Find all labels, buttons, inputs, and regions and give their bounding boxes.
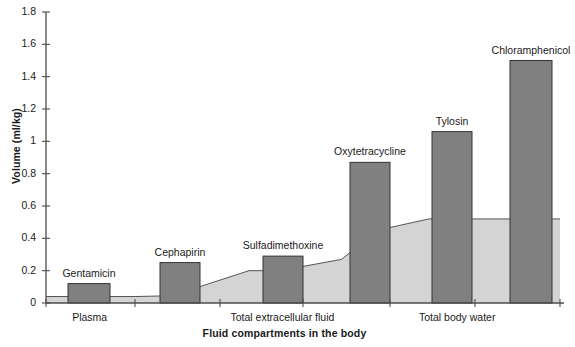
bar-sulfadimethoxine[interactable] — [263, 256, 303, 303]
x-axis-title: Fluid compartments in the body — [0, 327, 569, 339]
bar-tylosin[interactable] — [432, 132, 472, 303]
bar-gentamicin[interactable] — [68, 284, 110, 303]
bar-chloramphenicol[interactable] — [510, 61, 552, 304]
bar-oxytetracycline[interactable] — [350, 162, 390, 303]
bar-cephapirin[interactable] — [160, 263, 200, 303]
